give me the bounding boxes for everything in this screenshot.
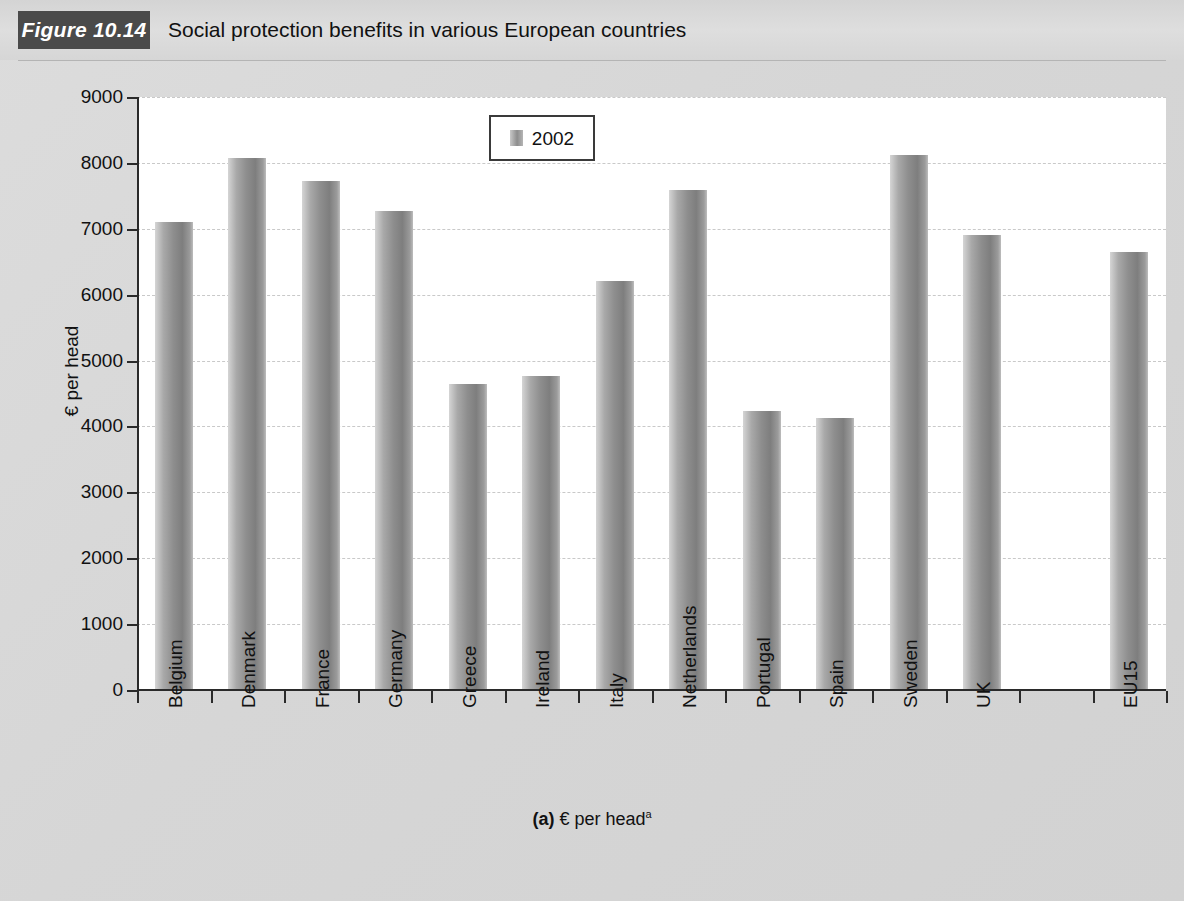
y-axis-tick bbox=[127, 558, 138, 560]
bar bbox=[155, 222, 193, 690]
x-axis-tick bbox=[946, 691, 948, 703]
y-axis-tick bbox=[127, 426, 138, 428]
bar bbox=[890, 155, 928, 690]
y-axis-tick-label: 3000 bbox=[53, 482, 123, 501]
x-axis-tick bbox=[1093, 691, 1095, 703]
x-axis-tick bbox=[799, 691, 801, 703]
gridline bbox=[137, 163, 1166, 164]
y-axis-tick-label-wrap: 7000 bbox=[45, 219, 123, 238]
gridline bbox=[137, 492, 1166, 493]
y-axis-tick-label: 1000 bbox=[53, 614, 123, 633]
y-axis-tick-label-wrap: 6000 bbox=[45, 285, 123, 304]
x-axis-tick bbox=[284, 691, 286, 703]
bar bbox=[1110, 252, 1148, 690]
bar bbox=[816, 418, 854, 690]
y-axis-tick-label-wrap: 3000 bbox=[45, 482, 123, 501]
bar bbox=[228, 158, 266, 690]
figure-page: Figure 10.14 Social protection benefits … bbox=[0, 0, 1184, 901]
x-axis-category-label: Netherlands bbox=[680, 606, 699, 708]
gridline bbox=[137, 361, 1166, 362]
bar bbox=[522, 376, 560, 690]
x-axis-category-label: Ireland bbox=[533, 650, 552, 708]
bar bbox=[302, 181, 340, 690]
y-axis-tick bbox=[127, 295, 138, 297]
y-axis-tick-label-wrap: 2000 bbox=[45, 548, 123, 567]
y-axis-tick-label-wrap: 4000 bbox=[45, 416, 123, 435]
x-axis-category-label: EU15 bbox=[1121, 660, 1140, 708]
y-axis-tick bbox=[127, 361, 138, 363]
y-axis-tick-label-wrap: 9000 bbox=[45, 87, 123, 106]
y-axis-tick-label-wrap: 1000 bbox=[45, 614, 123, 633]
y-axis-tick-label: 9000 bbox=[53, 87, 123, 106]
x-axis-category-label: Greece bbox=[460, 646, 479, 708]
x-axis-tick bbox=[137, 691, 139, 703]
x-axis-tick bbox=[431, 691, 433, 703]
gridline bbox=[137, 558, 1166, 559]
gridline bbox=[137, 624, 1166, 625]
x-axis-category-label: Spain bbox=[827, 659, 846, 708]
legend-swatch-icon bbox=[510, 130, 523, 146]
legend-label: 2002 bbox=[532, 129, 574, 148]
plot-area bbox=[137, 97, 1166, 690]
y-axis-tick-label-wrap: 8000 bbox=[45, 153, 123, 172]
x-axis-category-label: Germany bbox=[386, 630, 405, 708]
x-axis-tick bbox=[725, 691, 727, 703]
x-axis-category-label: Denmark bbox=[239, 631, 258, 708]
caption-prefix: (a) bbox=[532, 809, 554, 829]
x-axis-category-label: Portugal bbox=[754, 637, 773, 708]
x-axis-category-label: UK bbox=[974, 682, 993, 708]
y-axis-tick-label: 8000 bbox=[53, 153, 123, 172]
gridline bbox=[137, 229, 1166, 230]
header-divider bbox=[18, 60, 1166, 61]
x-axis-tick bbox=[358, 691, 360, 703]
y-axis-tick bbox=[127, 492, 138, 494]
figure-number-badge: Figure 10.14 bbox=[18, 11, 150, 49]
x-axis-tick bbox=[1019, 691, 1021, 703]
x-axis-category-label: Italy bbox=[607, 673, 626, 708]
y-axis-tick-label: 7000 bbox=[53, 219, 123, 238]
y-axis-line bbox=[137, 97, 139, 691]
figure-title: Social protection benefits in various Eu… bbox=[168, 12, 686, 48]
bar-chart: 0100020003000400050006000700080009000 € … bbox=[0, 60, 1184, 901]
bar bbox=[596, 281, 634, 690]
x-axis-tick bbox=[872, 691, 874, 703]
gridline bbox=[137, 295, 1166, 296]
x-axis-tick bbox=[1166, 691, 1168, 703]
caption-footnote-marker: a bbox=[645, 808, 651, 820]
y-axis-tick bbox=[127, 97, 138, 99]
gridline bbox=[137, 97, 1166, 98]
x-axis-tick bbox=[578, 691, 580, 703]
x-axis-category-label: Belgium bbox=[166, 639, 185, 708]
gridline bbox=[137, 426, 1166, 427]
y-axis-tick bbox=[127, 229, 138, 231]
figure-caption: (a) € per heada bbox=[0, 808, 1184, 830]
x-axis-category-label: Sweden bbox=[901, 639, 920, 708]
figure-header: Figure 10.14 Social protection benefits … bbox=[0, 0, 1184, 60]
caption-text: € per head bbox=[559, 809, 645, 829]
y-axis-tick-label: 0 bbox=[53, 680, 123, 699]
bar bbox=[963, 235, 1001, 690]
bar bbox=[375, 211, 413, 690]
legend: 2002 bbox=[489, 115, 595, 161]
x-axis-category-label: France bbox=[313, 649, 332, 708]
x-axis-tick bbox=[211, 691, 213, 703]
x-axis-tick bbox=[505, 691, 507, 703]
y-axis-tick-label: 2000 bbox=[53, 548, 123, 567]
y-axis-tick-label-wrap: 0 bbox=[45, 680, 123, 699]
x-axis-tick bbox=[652, 691, 654, 703]
y-axis-tick bbox=[127, 163, 138, 165]
y-axis-tick-label-wrap: 5000 bbox=[45, 351, 123, 370]
bar bbox=[449, 384, 487, 690]
y-axis-tick bbox=[127, 624, 138, 626]
y-axis-title: € per head bbox=[61, 271, 83, 471]
